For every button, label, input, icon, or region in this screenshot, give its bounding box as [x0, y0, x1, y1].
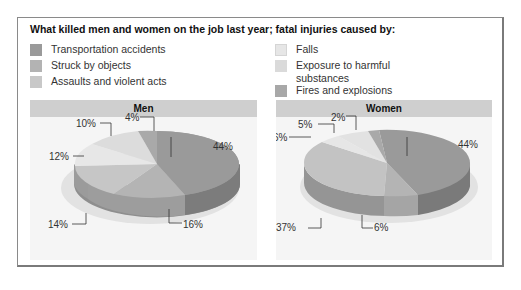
legend-swatch	[275, 85, 287, 97]
legend-item-fires: Fires and explosions	[275, 84, 392, 97]
women-label-transportation: 44%	[458, 139, 478, 150]
chart-title: What killed men and women on the job las…	[30, 23, 395, 35]
legend-swatch	[275, 60, 287, 72]
legend-label: Exposure to harmful substances	[296, 59, 425, 85]
men-label-exposure: 10%	[76, 118, 96, 129]
men-pie-chart: 44% 16% 14% 12% 10% 4%	[30, 100, 257, 260]
women-label-falls: 6%	[276, 132, 288, 143]
women-label-fires: 2%	[331, 112, 346, 123]
women-label-exposure: 5%	[298, 119, 313, 130]
legend-swatch	[275, 44, 287, 56]
legend-label: Fires and explosions	[296, 84, 392, 97]
legend-label: Falls	[296, 43, 318, 56]
legend-item-exposure: Exposure to harmful substances	[275, 59, 425, 85]
legend-item-assaults: Assaults and violent acts	[30, 75, 167, 88]
men-label-falls: 12%	[49, 151, 69, 162]
men-label-assaults: 14%	[48, 219, 68, 230]
legend-item-falls: Falls	[275, 43, 318, 56]
women-label-struck: 6%	[374, 222, 389, 233]
men-label-transportation: 44%	[213, 141, 233, 152]
legend-swatch	[30, 76, 42, 88]
legend-swatch	[30, 44, 42, 56]
women-panel: Women 44% 6% 37% 6% 5% 2%	[276, 100, 492, 260]
legend-item-struck: Struck by objects	[30, 59, 131, 72]
men-panel: Men 44% 16% 14%	[30, 100, 257, 260]
legend-label: Struck by objects	[51, 59, 131, 72]
men-label-struck: 16%	[183, 219, 203, 230]
legend-swatch	[30, 60, 42, 72]
women-pie-chart: 44% 6% 37% 6% 5% 2%	[276, 100, 492, 260]
women-label-assaults: 37%	[276, 222, 296, 233]
legend-label: Assaults and violent acts	[51, 75, 167, 88]
men-label-fires: 4%	[125, 112, 140, 123]
legend-label: Transportation accidents	[51, 43, 166, 56]
legend-item-transportation: Transportation accidents	[30, 43, 166, 56]
